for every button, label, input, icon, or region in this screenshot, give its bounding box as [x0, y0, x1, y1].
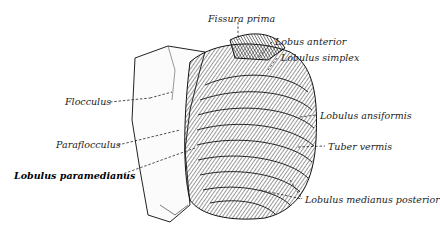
- label-tuber-vermis: Tuber vermis: [328, 142, 392, 152]
- cerebellum-diagram: Fissura prima Lobus anterior Lobulus sim…: [0, 0, 440, 225]
- label-fissura-prima: Fissura prima: [208, 14, 275, 24]
- label-lobulus-medianus-posterior: Lobulus medianus posterior: [305, 195, 440, 205]
- label-lobus-anterior: Lobus anterior: [275, 37, 346, 47]
- label-paraflocculus: Paraflocculus: [56, 140, 121, 150]
- label-lobulus-paramedianus: Lobulus paramedianus: [14, 171, 135, 181]
- cerebellar-hemisphere: [185, 44, 317, 219]
- label-lobulus-ansiformis: Lobulus ansiformis: [320, 111, 412, 121]
- label-lobulus-simplex: Lobulus simplex: [281, 53, 359, 63]
- label-flocculus: Flocculus: [65, 97, 111, 107]
